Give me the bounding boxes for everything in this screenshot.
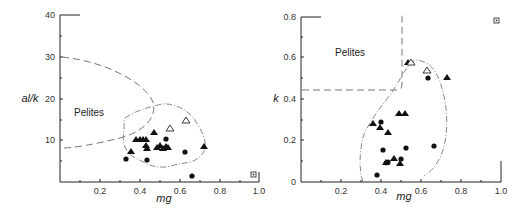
- left-pelites-field: [62, 57, 154, 148]
- right-filled-circles: [374, 75, 436, 177]
- left-y-tick-10: 10: [45, 135, 55, 145]
- right-chart: 0 0.2 0.4 0.6 0.8 0.2 0.4 0.6 0.8 1.0 k …: [273, 12, 507, 202]
- right-pelites-label: Pelites: [335, 47, 365, 58]
- right-x-tick-0.6: 0.6: [415, 186, 428, 196]
- left-y-tick-40: 40: [45, 10, 55, 20]
- left-y-tick-30: 30: [45, 52, 55, 62]
- figure: 10 20 30 40 0.2 0.4 0.6 0.8 1.0 al/k mg …: [0, 0, 529, 210]
- right-y-tick-0: 0: [291, 177, 296, 187]
- right-boxed-symbol: [494, 18, 499, 23]
- left-filled-triangles: [127, 129, 208, 154]
- left-x-tick-0.8: 0.8: [214, 186, 227, 196]
- right-x-tick-1.0: 1.0: [495, 186, 508, 196]
- left-x-tick-1.0: 1.0: [253, 186, 266, 196]
- left-x-tick-0.6: 0.6: [174, 186, 187, 196]
- left-x-tick-0.4: 0.4: [134, 186, 147, 196]
- right-y-tick-0.8: 0.8: [283, 12, 296, 22]
- right-y-tick-0.4: 0.4: [283, 94, 296, 104]
- right-y-tick-0.2: 0.2: [283, 135, 296, 145]
- left-chart: 10 20 30 40 0.2 0.4 0.6 0.8 1.0 al/k mg …: [21, 10, 265, 204]
- right-x-tick-0.4: 0.4: [375, 186, 388, 196]
- left-y-axis-title: al/k: [21, 92, 39, 104]
- right-x-axis-title: mg: [396, 190, 412, 202]
- left-x-axis-title: mg: [156, 192, 172, 204]
- left-x-tick-0.2: 0.2: [94, 186, 107, 196]
- right-y-axis-title: k: [273, 92, 279, 104]
- left-sample-field: [123, 104, 205, 167]
- left-open-triangles: [166, 117, 190, 131]
- left-axes: [60, 15, 259, 182]
- right-x-tick-0.2: 0.2: [335, 186, 348, 196]
- left-pelites-label: Pelites: [74, 107, 104, 118]
- right-x-tick-0.8: 0.8: [455, 186, 468, 196]
- right-open-triangles: [407, 59, 431, 73]
- left-boxed-symbol: [251, 172, 256, 177]
- right-y-tick-0.6: 0.6: [283, 52, 296, 62]
- left-y-tick-20: 20: [45, 94, 55, 104]
